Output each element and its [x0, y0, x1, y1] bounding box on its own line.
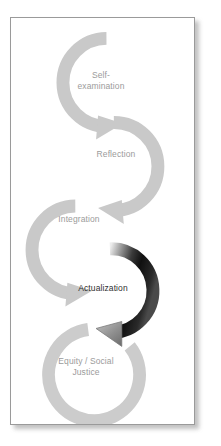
stage-ring-actualization — [96, 249, 153, 347]
stage-ring-equity-social-justice — [49, 329, 140, 420]
cycle-chain-graphic — [11, 18, 194, 424]
stage-ring-reflection — [98, 122, 158, 224]
stage-ring-integration — [32, 206, 92, 307]
diagram-card: Self- examination Reflection Integration… — [10, 17, 195, 425]
stage-ring-self-examination — [63, 38, 123, 139]
diagram-canvas: Self- examination Reflection Integration… — [0, 0, 221, 446]
